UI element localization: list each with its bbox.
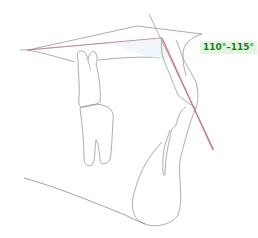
- cephalometric-diagram: [0, 0, 258, 238]
- mandibular-symphysis: [132, 108, 196, 226]
- lower-incisor: [163, 107, 186, 176]
- lower-molar: [80, 104, 113, 165]
- mandible-border: [24, 178, 145, 224]
- maxilla-outline: [20, 26, 202, 76]
- angle-label: 110°–115°: [200, 41, 257, 54]
- upper-molar: [77, 51, 100, 107]
